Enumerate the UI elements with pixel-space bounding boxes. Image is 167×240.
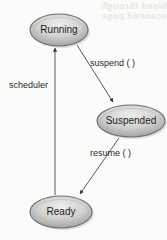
edge-label-scheduler: scheduler xyxy=(9,80,48,90)
node-label-suspended: Suspended xyxy=(96,115,166,126)
node-label-ready: Ready xyxy=(30,206,92,217)
edge-resume-arrow xyxy=(80,138,119,194)
edge-suspend-arrow xyxy=(77,45,113,102)
edge-label-resume: resume ( ) xyxy=(90,148,131,158)
edge-label-suspend: suspend ( ) xyxy=(90,58,135,68)
node-label-running: Running xyxy=(29,24,89,35)
state-transition-diagram: bleed through scanned page xyxy=(0,0,167,240)
